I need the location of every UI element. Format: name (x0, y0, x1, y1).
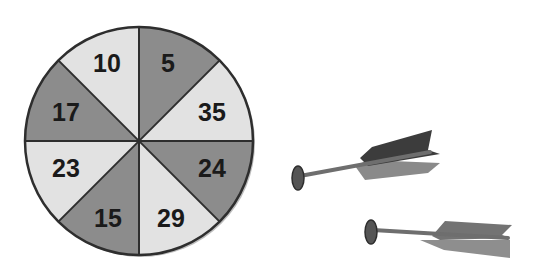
segment-label: 35 (198, 98, 226, 126)
segment-label: 29 (157, 204, 185, 232)
dart-1 (292, 130, 440, 190)
dart-fin-upper (360, 130, 440, 166)
segment-label: 23 (52, 154, 80, 182)
dart-2 (365, 220, 512, 258)
segment-label: 10 (93, 49, 121, 77)
dart-fin-lower (420, 240, 510, 258)
scene: 5 35 24 29 15 23 17 10 (0, 0, 538, 279)
segment-label: 17 (52, 98, 80, 126)
dartboard: 5 35 24 29 15 23 17 10 (25, 27, 255, 257)
suction-cup (292, 166, 304, 190)
segment-label: 15 (94, 204, 122, 232)
segment-label: 24 (198, 154, 226, 182)
segment-label: 5 (161, 49, 175, 77)
suction-cup (365, 220, 377, 244)
